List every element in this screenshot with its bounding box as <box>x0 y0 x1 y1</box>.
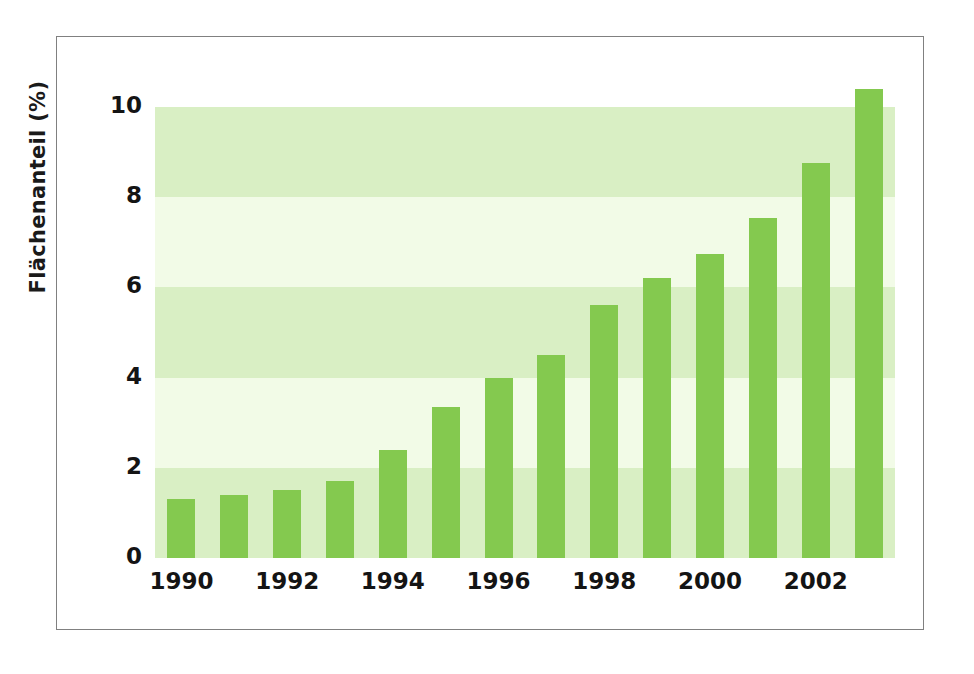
x-tick-label: 1992 <box>242 568 332 594</box>
x-tick-label: 1996 <box>454 568 544 594</box>
x-tick-label: 2002 <box>771 568 861 594</box>
x-axis-tick-labels: 1990199219941996199820002002 <box>0 0 974 674</box>
chart-figure: Flächenanteil (%) 0246810 19901992199419… <box>0 0 974 674</box>
x-tick-label: 2000 <box>665 568 755 594</box>
x-tick-label: 1998 <box>559 568 649 594</box>
x-tick-label: 1990 <box>136 568 226 594</box>
x-tick-label: 1994 <box>348 568 438 594</box>
